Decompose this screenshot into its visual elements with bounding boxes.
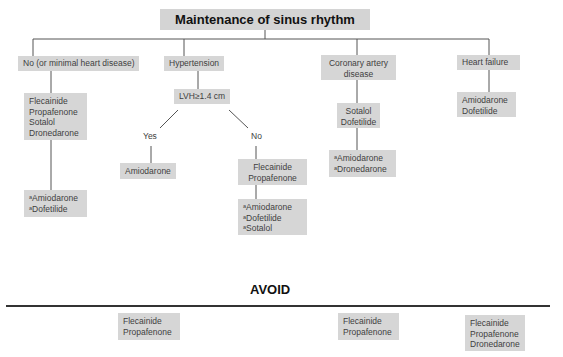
drug: Propafenone (243, 173, 302, 184)
drug: Sotalol (29, 117, 82, 128)
no-hd-first-line-box: Flecainide Propafenone Sotalol Dronedaro… (24, 93, 87, 140)
cad-second-line-box: aAmiodarone aDronedarone (329, 150, 396, 177)
yes-label: Yes (143, 131, 157, 141)
drug: Propafenone (470, 329, 520, 340)
drug: Flecainide (343, 316, 394, 327)
drug: Flecainide (29, 96, 82, 107)
category-cad: Coronary artery disease (321, 55, 396, 80)
drug: Amiodarone (462, 95, 511, 106)
drug: Dofetilide (339, 117, 378, 128)
no-label: No (251, 131, 262, 141)
no-hd-second-line-box: aAmiodarone aDofetilide (24, 190, 87, 217)
avoid-heart-failure-box: Flecainide Propafenone Dronedarone (465, 315, 525, 351)
drug: Amiodarone (337, 153, 383, 163)
chart-title: Maintenance of sinus rhythm (160, 9, 370, 30)
drug: Sotalol (246, 223, 272, 233)
category-label: Coronary artery (326, 58, 391, 69)
category-hypertension: Hypertension (164, 56, 224, 71)
drug: Flecainide (243, 162, 302, 173)
lvh-yes-drug-box: Amiodarone (120, 163, 176, 179)
avoid-cad-box: Flecainide Propafenone (338, 313, 399, 340)
drug: Propafenone (123, 327, 175, 338)
cad-first-line-box: Sotalol Dofetilide (337, 103, 380, 128)
lvh-no-first-line-box: Flecainide Propafenone (238, 159, 307, 185)
lvh-decision-box: LVH≥1.4 cm (174, 89, 230, 104)
drug: Dofetilide (32, 204, 67, 214)
drug: Flecainide (123, 316, 175, 327)
drug: Propafenone (343, 327, 394, 338)
drug: Dofetilide (462, 106, 511, 117)
avoid-hypertension-box: Flecainide Propafenone (118, 313, 180, 340)
lvh-no-second-line-box: aAmiodarone aDofetilide aSotalol (238, 199, 307, 235)
avoid-divider (6, 305, 550, 307)
decision-label: LVH≥1.4 cm (179, 91, 225, 101)
drug: Amiodarone (246, 202, 292, 212)
avoid-heading: AVOID (250, 282, 290, 297)
hf-first-line-box: Amiodarone Dofetilide (457, 92, 516, 117)
category-heart-failure: Heart failure (457, 55, 520, 70)
drug: Flecainide (470, 318, 520, 329)
drug: Propafenone (29, 107, 82, 118)
drug: Sotalol (339, 106, 378, 117)
drug: Dronedarone (29, 128, 82, 139)
category-no-heart-disease: No (or minimal heart disease) (18, 56, 139, 71)
category-label: disease (326, 69, 391, 80)
drug: Amiodarone (125, 166, 171, 176)
category-label: No (or minimal heart disease) (23, 58, 134, 68)
category-label: Heart failure (462, 57, 508, 67)
category-label: Hypertension (169, 58, 219, 68)
drug: Amiodarone (32, 193, 78, 203)
drug: Dronedarone (470, 339, 520, 350)
drug: Dronedarone (337, 164, 387, 174)
drug: Dofetilide (246, 213, 281, 223)
